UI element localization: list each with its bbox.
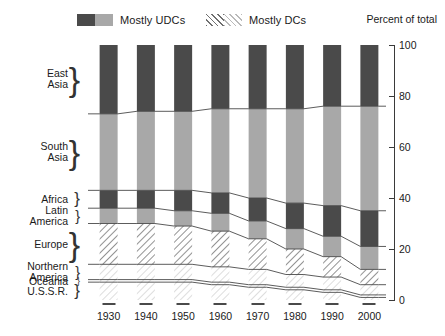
- bar-segment: [174, 211, 192, 226]
- y-axis-tick: [389, 147, 395, 148]
- x-axis-tick-label: 1940: [134, 310, 157, 322]
- legend-swatch-dc-light-hatch: [224, 14, 242, 26]
- bar-segment: [137, 45, 155, 111]
- bar-segment: [323, 106, 341, 205]
- legend-item-mostly-dcs: Mostly DCs: [206, 13, 306, 27]
- x-axis-tick-label: 1990: [320, 310, 343, 322]
- y-axis-tick: [389, 45, 395, 46]
- y-axis-tick-label: 0: [399, 295, 405, 306]
- boundary-line: [88, 224, 386, 270]
- y-axis-tick-label: 80: [399, 91, 411, 102]
- bar-segment: [100, 264, 118, 279]
- bar-segment: [286, 109, 304, 203]
- bar-segment: [174, 226, 192, 264]
- boundary-line: [88, 190, 386, 210]
- x-axis-tick-label: 1930: [97, 310, 120, 322]
- legend-swatch-udc-light: [95, 14, 113, 26]
- legend-item-mostly-udcs: Mostly UDCs: [77, 13, 185, 27]
- boundary-line: [88, 208, 386, 246]
- x-axis-tick-label: 1980: [283, 310, 306, 322]
- legend-swatch-dc: [206, 14, 242, 26]
- y-axis-tick-label: 20: [399, 244, 411, 255]
- bar-segment: [323, 45, 341, 106]
- boundary-line: [88, 106, 386, 114]
- legend-swatch-udc: [77, 14, 113, 26]
- region-brace: }: [69, 227, 80, 261]
- bar-segment: [100, 208, 118, 223]
- x-axis-tick: [177, 303, 190, 305]
- bar-segment: [211, 109, 229, 193]
- boundary-line: [88, 264, 386, 284]
- region-label-south-asia: SouthAsia: [41, 141, 68, 163]
- region-label-latin-america-line: America: [29, 216, 68, 227]
- bar-segment: [286, 275, 304, 288]
- bar-segment: [137, 224, 155, 265]
- bar-segment: [100, 224, 118, 265]
- bar-segment: [100, 114, 118, 191]
- bar-segment: [137, 282, 155, 300]
- bar-segment: [323, 257, 341, 277]
- y-axis-tick: [389, 198, 395, 199]
- bar-segment: [137, 111, 155, 190]
- x-axis-tick: [102, 303, 115, 305]
- bar-segment: [360, 246, 378, 269]
- x-axis-tick-label: 1950: [171, 310, 194, 322]
- bar-segment: [211, 285, 229, 300]
- bar-segment: [286, 229, 304, 249]
- x-axis-tick: [363, 303, 376, 305]
- region-label-east-asia-line: Asia: [47, 79, 68, 90]
- bar-segment: [211, 231, 229, 267]
- bar-segment: [323, 206, 341, 237]
- bar-segment: [249, 45, 267, 109]
- region-label-europe-line: Europe: [34, 238, 68, 249]
- bar-segment: [100, 190, 118, 208]
- bar-segment: [137, 190, 155, 208]
- y-axis-tick-label: 40: [399, 193, 411, 204]
- region-brace: }: [75, 209, 80, 224]
- chart-legend: Mostly UDCs Mostly DCs Percent of total: [0, 0, 445, 34]
- bar-segment: [174, 282, 192, 300]
- y-axis-tick: [389, 96, 395, 97]
- x-axis-tick-label: 2000: [358, 310, 381, 322]
- bar-segment: [360, 211, 378, 247]
- bar-segment: [211, 193, 229, 213]
- region-label-south-asia-line: Asia: [41, 152, 68, 163]
- bar-segment: [360, 285, 378, 295]
- region-label-ussr: U.S.S.R.: [27, 286, 68, 297]
- region-brace: }: [74, 191, 80, 208]
- stacked-area-plot: [88, 45, 386, 300]
- bar-segment: [286, 249, 304, 275]
- bar-segment: [249, 287, 267, 300]
- bar-segment: [211, 213, 229, 231]
- x-axis-tick-label: 1970: [246, 310, 269, 322]
- region-brace: }: [74, 283, 80, 300]
- bar-segment: [174, 45, 192, 111]
- region-label-latin-america: LatinAmerica: [29, 205, 68, 227]
- bar-segment: [249, 269, 267, 284]
- bar-segment: [211, 45, 229, 109]
- x-axis-labels: 19301940195019601970198019902000: [88, 310, 388, 326]
- y-axis-title: Percent of total: [366, 13, 437, 25]
- y-axis-tick: [389, 300, 395, 301]
- bar-segment: [174, 111, 192, 190]
- bar-segment: [249, 198, 267, 221]
- bar-segment: [360, 106, 378, 211]
- y-axis-tick-label: 100: [399, 40, 417, 51]
- bar-segment: [137, 208, 155, 223]
- legend-swatch-dc-dark-hatch: [206, 14, 224, 26]
- region-label-europe: Europe: [34, 238, 68, 249]
- bar-segment: [323, 236, 341, 256]
- bar-segment: [174, 264, 192, 279]
- bar-segment: [286, 290, 304, 300]
- bar-segment: [286, 203, 304, 229]
- region-brace: }: [69, 62, 80, 96]
- y-axis-tick: [389, 249, 395, 250]
- plot-area: [88, 45, 386, 300]
- x-axis-tick: [251, 303, 264, 305]
- chart-figure: Mostly UDCs Mostly DCs Percent of total …: [0, 0, 445, 336]
- x-axis-tick: [139, 303, 152, 305]
- legend-label-mostly-udcs: Mostly UDCs: [120, 14, 185, 26]
- y-axis-spine: [394, 45, 395, 300]
- region-brace: }: [69, 135, 80, 169]
- bar-segment: [100, 45, 118, 114]
